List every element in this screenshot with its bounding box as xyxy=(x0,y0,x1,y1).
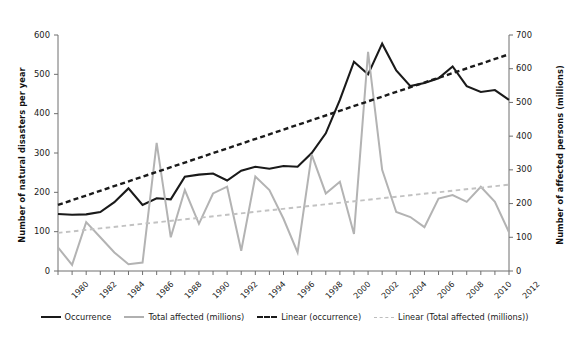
y-axis-left-tick-label: 500 xyxy=(24,69,50,79)
legend-item-linear-occurrence[interactable]: Linear (occurrence) xyxy=(257,312,361,322)
legend-label: Total affected (millions) xyxy=(148,312,244,322)
y-axis-right-tick-label: 300 xyxy=(516,164,542,174)
y-axis-left-tick-label: 200 xyxy=(24,187,50,197)
y-axis-right-tick-label: 200 xyxy=(516,198,542,208)
legend-label: Linear (occurrence) xyxy=(281,312,361,322)
legend-item-total-affected[interactable]: Total affected (millions) xyxy=(124,312,244,322)
legend-item-occurrence[interactable]: Occurrence xyxy=(41,312,112,322)
solid-gray-line-icon xyxy=(124,316,144,318)
legend-label: Occurrence xyxy=(65,312,112,322)
axis-spines xyxy=(58,35,509,271)
series-layer xyxy=(58,44,509,265)
series-total-affected-millions xyxy=(58,52,509,265)
y-axis-right-tick-label: 700 xyxy=(516,30,542,40)
y-axis-right-tick-label: 100 xyxy=(516,232,542,242)
y-axis-left-tick-label: 400 xyxy=(24,108,50,118)
chart-legend: Occurrence Total affected (millions) Lin… xyxy=(0,312,569,322)
solid-dark-line-icon xyxy=(41,316,61,318)
y-axis-right-tick-label: 0 xyxy=(516,266,542,276)
y-axis-left-tick-label: 300 xyxy=(24,148,50,158)
y-axis-right-tick-label: 400 xyxy=(516,131,542,141)
legend-item-linear-total-affected[interactable]: Linear (Total affected (millions)) xyxy=(374,312,528,322)
y-axis-left-tick-label: 600 xyxy=(24,30,50,40)
y-axis-right-tick-label: 600 xyxy=(516,63,542,73)
y-axis-left-tick-label: 100 xyxy=(24,226,50,236)
y-axis-right-tick-label: 500 xyxy=(516,97,542,107)
series-linear-occurrence xyxy=(58,54,509,205)
axis-layer xyxy=(54,35,513,275)
legend-label: Linear (Total affected (millions)) xyxy=(398,312,528,322)
chart-figure: Number of natural disasters per year Num… xyxy=(0,0,569,340)
y-axis-left-tick-label: 0 xyxy=(24,266,50,276)
dashed-gray-line-icon xyxy=(374,317,394,318)
dashed-dark-line-icon xyxy=(257,316,277,318)
y-axis-right-title: Number of affected persons (millions) xyxy=(555,55,565,255)
